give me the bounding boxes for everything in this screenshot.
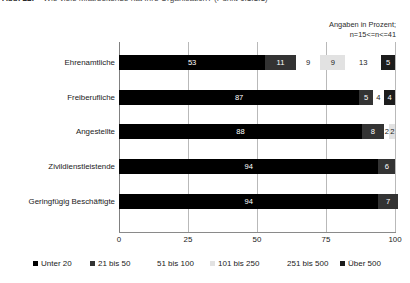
chart-legend: Unter 2021 bis 5051 bis 100101 bis 25025… [0, 259, 410, 275]
bar-segment[interactable]: 5 [381, 55, 395, 70]
legend-label: 21 bis 50 [98, 259, 130, 268]
bar-segment[interactable]: 2 [389, 124, 395, 139]
bar-segment[interactable]: 94 [119, 159, 378, 174]
legend-item[interactable]: 21 bis 50 [90, 259, 130, 268]
x-axis-tick-labels: 0255075100 [119, 235, 395, 249]
stacked-bar[interactable]: 88822 [119, 124, 395, 139]
bar-segment[interactable]: 88 [119, 124, 362, 139]
figure-title-text: Wie viele Mitarbeitende hat Ihre Organis… [43, 0, 267, 3]
bar-segment-value: 2 [390, 127, 394, 136]
bar-segment-value: 8 [371, 127, 375, 136]
bar-segment-value: 53 [188, 58, 196, 67]
x-tick-label-0: 0 [117, 235, 121, 244]
bar-segment[interactable]: 53 [119, 55, 265, 70]
bar-segment-value: 4 [376, 93, 380, 102]
bar-segment-value: 5 [386, 58, 390, 67]
legend-label: Über 500 [348, 259, 381, 268]
legend-swatch-icon [149, 261, 154, 266]
x-tick-label-50: 50 [253, 235, 262, 244]
legend-label: Unter 20 [41, 259, 72, 268]
figure-title: Abb. 22:Wie viele Mitarbeitende hat Ihre… [2, 0, 408, 5]
bar-segment[interactable]: 11 [265, 55, 295, 70]
x-tick-label-75: 75 [322, 235, 331, 244]
legend-label: 51 bis 100 [157, 259, 194, 268]
stacked-bar[interactable]: 947 [119, 194, 398, 209]
stacked-bar[interactable]: 531199135 [119, 55, 395, 70]
bar-segment-value: 9 [331, 58, 335, 67]
bar-row[interactable]: 531199135 [119, 55, 395, 70]
bar-segment[interactable]: 9 [320, 55, 345, 70]
legend-item[interactable]: 251 bis 500 [279, 259, 328, 268]
figure-number: Abb. 22: [2, 0, 34, 3]
legend-swatch-icon [90, 261, 95, 266]
bar-segment[interactable]: 9 [296, 55, 321, 70]
bar-segment-value: 94 [245, 162, 253, 171]
bar-row[interactable]: 946 [119, 159, 395, 174]
legend-label: 101 bis 250 [218, 259, 259, 268]
legend-swatch-icon [33, 261, 38, 266]
annotation-line-2: n=15<=n<=41 [329, 30, 396, 40]
bar-segment-value: 11 [277, 58, 285, 67]
bar-segment-value: 4 [387, 93, 391, 102]
legend-swatch-icon [279, 261, 284, 266]
bar-row[interactable]: 947 [119, 194, 395, 209]
bar-segment-value: 7 [386, 197, 390, 206]
legend-swatch-icon [340, 261, 345, 266]
bar-segment[interactable]: 4 [373, 90, 384, 105]
bar-segment[interactable]: 8 [362, 124, 384, 139]
bar-segment[interactable]: 7 [378, 194, 397, 209]
bar-row[interactable]: 87544 [119, 90, 395, 105]
bar-segment-value: 2 [385, 127, 389, 136]
category-label: Geringfügig Beschäftigte [3, 197, 115, 206]
legend-item[interactable]: Über 500 [340, 259, 381, 268]
plot-area: 5311991358754488822946947 [119, 42, 395, 232]
bar-segment[interactable]: 13 [345, 55, 381, 70]
legend-label: 251 bis 500 [287, 259, 328, 268]
category-label: Angestellte [3, 127, 115, 136]
bar-segment[interactable]: 6 [378, 159, 395, 174]
x-tick-label-25: 25 [184, 235, 193, 244]
stacked-bar[interactable]: 946 [119, 159, 395, 174]
bar-segment-value: 6 [385, 162, 389, 171]
category-label: Ehrenamtliche [3, 58, 115, 67]
stacked-bar[interactable]: 87544 [119, 90, 395, 105]
bar-segment-value: 5 [364, 93, 368, 102]
bar-segment-value: 88 [236, 127, 244, 136]
bar-segment[interactable]: 94 [119, 194, 378, 209]
bar-segment-value: 87 [235, 93, 243, 102]
x-tick-label-100: 100 [388, 235, 401, 244]
chart-annotation: Angaben in Prozent; n=15<=n<=41 [329, 20, 396, 39]
category-label: Freiberufliche [3, 93, 115, 102]
legend-item[interactable]: 101 bis 250 [210, 259, 259, 268]
bar-row[interactable]: 88822 [119, 124, 395, 139]
category-axis-labels: EhrenamtlicheFreiberuflicheAngestellteZi… [0, 42, 115, 232]
annotation-line-1: Angaben in Prozent; [329, 20, 396, 30]
bar-segment[interactable]: 4 [384, 90, 395, 105]
bar-segment[interactable]: 5 [359, 90, 373, 105]
bar-segment-value: 94 [245, 197, 253, 206]
bar-segment[interactable]: 87 [119, 90, 359, 105]
legend-swatch-icon [210, 261, 215, 266]
bar-segment-value: 13 [359, 58, 367, 67]
legend-item[interactable]: 51 bis 100 [149, 259, 194, 268]
legend-item[interactable]: Unter 20 [33, 259, 72, 268]
category-label: Zivildienstleistende [3, 162, 115, 171]
bar-segment-value: 9 [306, 58, 310, 67]
x-axis-line [119, 232, 396, 233]
